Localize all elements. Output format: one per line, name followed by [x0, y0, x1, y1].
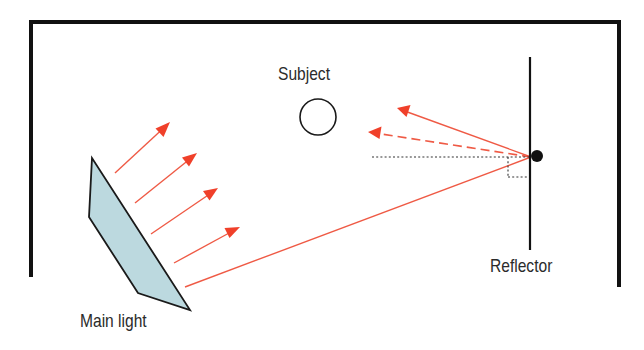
reflected-ray-dashed — [378, 134, 531, 158]
arrowhead-icon — [368, 127, 382, 140]
arrowhead-icon — [397, 105, 411, 117]
arrowhead-icon — [156, 122, 171, 137]
lighting-diagram — [0, 0, 644, 350]
subject-label: Subject — [278, 64, 330, 83]
reflected-ray-solid — [406, 112, 531, 158]
reflector-label: Reflector — [490, 256, 552, 275]
arrowhead-icon — [182, 153, 197, 167]
subject-circle — [300, 99, 336, 135]
incident-ray-3 — [151, 195, 209, 235]
incident-ray-2 — [135, 161, 188, 204]
main-light-label: Main light — [80, 311, 147, 330]
incident-ray-1 — [115, 130, 162, 174]
reflector-point — [531, 150, 543, 162]
arrowhead-icon — [203, 188, 218, 201]
arrowhead-icon — [225, 227, 241, 238]
ray-to-reflector — [185, 157, 531, 287]
incident-ray-4 — [174, 233, 230, 264]
reflected-rays — [368, 105, 531, 157]
main-light-panel — [89, 158, 190, 310]
